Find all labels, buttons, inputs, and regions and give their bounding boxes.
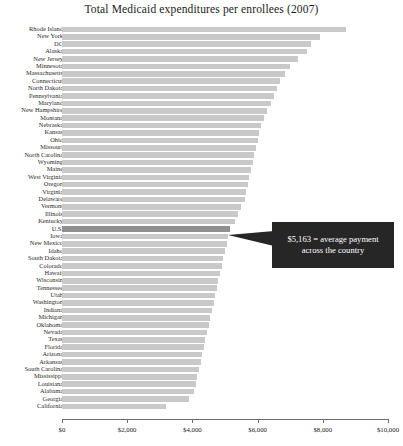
average-payment-callout: $5,163 = average payment across the coun… [272, 222, 394, 268]
bar-track [62, 204, 241, 210]
bar-track [62, 300, 214, 306]
bar-track [62, 152, 254, 158]
bar-track [62, 315, 210, 321]
bar-track [62, 337, 205, 343]
bar-fill [62, 248, 225, 254]
bar-category-label: New Mexico [0, 239, 63, 246]
bar-category-label: Hawaii [0, 269, 63, 276]
bar-category-label: Alabama [0, 387, 63, 394]
bar-track [62, 344, 204, 350]
bar-category-label: Wyoming [0, 158, 63, 165]
bar-category-label: Oregon [0, 180, 63, 187]
bar-fill [62, 138, 258, 144]
bar-category-label: Oklahoma [0, 321, 63, 328]
bar-category-label: Texas [0, 335, 63, 342]
bar-track [62, 352, 202, 358]
medicaid-expenditures-chart: Total Medicaid expenditures per enrollee… [0, 0, 403, 446]
bar-fill [62, 389, 194, 395]
bar-category-label: Iowa [0, 232, 63, 239]
bar-fill [62, 256, 223, 262]
bar-track [62, 330, 207, 336]
bar-category-label: Illinois [0, 210, 63, 217]
bar-track [62, 396, 189, 402]
bar-track [62, 234, 228, 240]
bar-fill [62, 367, 199, 373]
bar-track [62, 256, 223, 262]
bar-track [62, 108, 267, 114]
bar-fill [62, 285, 217, 291]
bar-fill [62, 219, 235, 225]
chart-title: Total Medicaid expenditures per enrollee… [0, 3, 403, 15]
bar-fill [62, 359, 201, 365]
bar-track [62, 167, 251, 173]
bar-row: California [0, 403, 403, 410]
bar-fill [62, 344, 204, 350]
bar-track [62, 49, 307, 55]
bar-track [62, 93, 274, 99]
bar-fill [62, 241, 227, 247]
bar-fill [62, 152, 254, 158]
bar-fill [62, 130, 259, 136]
bar-category-label: Maine [0, 165, 63, 172]
bar-fill [62, 182, 248, 188]
bar-category-label: DC [0, 40, 63, 47]
callout-text: $5,163 = average payment across the coun… [272, 222, 394, 268]
bar-track [62, 374, 197, 380]
bar-track [62, 404, 166, 410]
bar-category-label: Nevada [0, 328, 63, 335]
bar-track [62, 211, 238, 217]
bar-fill [62, 101, 271, 107]
bar-category-label: Arizona [0, 350, 63, 357]
bar-category-label: Vermont [0, 202, 63, 209]
bar-category-label: California [0, 402, 63, 409]
bar-fill [62, 86, 277, 92]
bar-category-label: Alaska [0, 47, 63, 54]
x-axis-tick [62, 419, 63, 423]
x-axis-tick-label: $2,000 [97, 426, 157, 433]
bar-fill [62, 93, 274, 99]
bar-track [62, 41, 311, 47]
bar-track [62, 308, 212, 314]
x-axis-tick-label: $4,000 [162, 426, 222, 433]
bar-category-label: Delaware [0, 195, 63, 202]
bar-fill [62, 41, 311, 47]
bar-track [62, 219, 235, 225]
bar-fill [62, 64, 290, 70]
bar-fill [62, 381, 196, 387]
bar-fill [62, 175, 249, 181]
bar-track [62, 34, 320, 40]
bar-category-label: Florida [0, 343, 63, 350]
x-axis: $0$2,000$4,000$6,000$8,000$10,000 [0, 419, 403, 446]
bar-track [62, 78, 280, 84]
bar-fill [62, 49, 307, 55]
bar-category-label: Kansas [0, 128, 63, 135]
bar-fill [62, 123, 261, 129]
bar-category-label: Virginia [0, 188, 63, 195]
bar-track [62, 64, 290, 70]
bar-track [62, 138, 258, 144]
bar-category-label: Rhode Island [0, 25, 63, 32]
bar-category-label: New York [0, 32, 63, 39]
bar-fill [62, 263, 222, 269]
bar-fill [62, 300, 214, 306]
bar-category-label: New Jersey [0, 55, 63, 62]
x-axis-tick-label: $8,000 [293, 426, 353, 433]
bar-fill [62, 226, 230, 232]
bar-fill [62, 271, 220, 277]
bar-category-label: Louisiana [0, 380, 63, 387]
bar-track [62, 115, 264, 121]
bar-category-label: Washington [0, 298, 63, 305]
bar-track [62, 175, 249, 181]
bar-fill [62, 108, 267, 114]
bar-category-label: West Virginia [0, 173, 63, 180]
x-axis-line [62, 419, 388, 420]
bar-track [62, 56, 298, 62]
bar-category-label: Idaho [0, 247, 63, 254]
bar-track [62, 226, 230, 232]
bar-fill [62, 197, 245, 203]
bar-category-label: Colorado [0, 262, 63, 269]
x-axis-tick [127, 419, 128, 423]
x-axis-tick [192, 419, 193, 423]
bar-fill [62, 160, 253, 166]
bar-category-label: North Dakota [0, 84, 63, 91]
